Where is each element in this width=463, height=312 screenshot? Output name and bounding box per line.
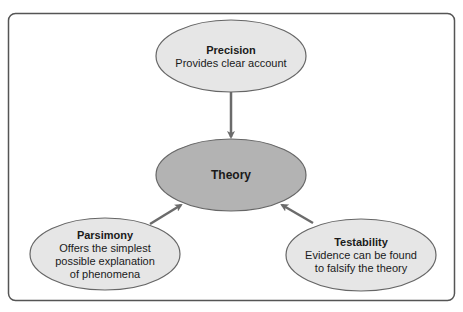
node-precision-description: Provides clear account — [175, 57, 286, 70]
node-parsimony-line-2: possible explanation — [55, 255, 155, 268]
node-theory-title: Theory — [211, 168, 251, 182]
node-testability-line-2: to falsify the theory — [305, 262, 417, 275]
node-parsimony-line-1: Offers the simplest — [55, 242, 155, 255]
node-parsimony-title: Parsimony — [55, 229, 155, 242]
node-precision: Precision Provides clear account — [175, 44, 286, 70]
node-parsimony: Parsimony Offers the simplest possible e… — [55, 229, 155, 281]
node-theory: Theory — [211, 169, 251, 182]
node-parsimony-line-3: of phenomena — [55, 268, 155, 281]
theory-criteria-diagram: Precision Provides clear account Theory … — [0, 0, 463, 312]
node-testability-line-1: Evidence can be found — [305, 249, 417, 262]
node-testability: Testability Evidence can be found to fal… — [305, 236, 417, 275]
node-testability-title: Testability — [305, 236, 417, 249]
node-precision-title: Precision — [175, 44, 286, 57]
